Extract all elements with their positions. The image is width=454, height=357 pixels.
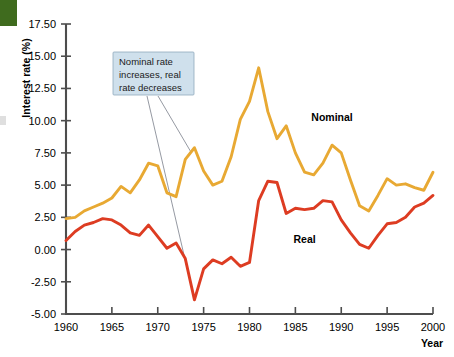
x-tick-label: 1965	[100, 321, 124, 333]
series-label-nominal: Nominal	[311, 111, 353, 123]
y-axis-ticks: -5.00-2.500.002.505.007.5010.0012.5015.0…	[28, 18, 71, 320]
annotation-line-1: Nominal rate	[119, 56, 173, 67]
y-tick-label: 17.50	[28, 18, 56, 30]
annotation-line-2: increases, real	[119, 69, 181, 80]
x-tick-label: 1990	[329, 321, 353, 333]
x-tick-label: 1970	[146, 321, 170, 333]
x-tick-label: 1960	[54, 321, 78, 333]
series-label-real: Real	[293, 233, 315, 245]
data-series-group	[66, 68, 433, 300]
chart-canvas: Interest rate (%) Year -5.00-2.500.002.5…	[0, 0, 454, 357]
x-tick-label: 1995	[375, 321, 399, 333]
y-tick-label: 15.00	[28, 50, 56, 62]
x-tick-label: 1980	[237, 321, 261, 333]
y-tick-label: -5.00	[31, 308, 56, 320]
corner-color-block	[0, 0, 17, 26]
y-tick-label: 7.50	[35, 147, 56, 159]
annotation-callout: Nominal rate increases, real rate decrea…	[113, 52, 194, 95]
y-tick-label: 12.50	[28, 82, 56, 94]
leader-line-2	[158, 96, 191, 152]
y-tick-label: -2.50	[31, 276, 56, 288]
interest-rate-chart: Interest rate (%) Year -5.00-2.500.002.5…	[0, 0, 454, 357]
x-tick-label: 1975	[191, 321, 215, 333]
x-axis-ticks: 196019651970197519801985199019952000	[54, 307, 445, 333]
y-tick-label: 10.00	[28, 115, 56, 127]
x-axis-title: Year	[421, 337, 443, 349]
left-edge-artifact	[0, 116, 6, 125]
annotation-line-3: rate decreases	[119, 82, 182, 93]
series-line-real	[66, 181, 433, 300]
x-tick-label: 2000	[421, 321, 445, 333]
y-tick-label: 0.00	[35, 244, 56, 256]
y-tick-label: 5.00	[35, 179, 56, 191]
x-tick-label: 1985	[283, 321, 307, 333]
y-tick-label: 2.50	[35, 211, 56, 223]
